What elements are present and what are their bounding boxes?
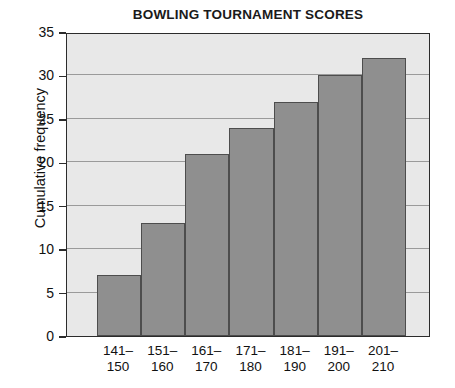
y-tick-mark [59,76,66,78]
y-tick-mark [59,336,66,338]
x-tick-label: 201–210 [353,343,413,375]
y-tick-label: 5 [8,285,54,301]
y-tick-label: 30 [8,67,54,83]
y-tick-label: 0 [8,328,54,344]
bar [97,275,141,336]
y-tick-mark [59,206,66,208]
y-tick-mark [59,293,66,295]
plot-area [66,33,430,337]
y-tick-mark [59,32,66,34]
y-tick-label: 10 [8,241,54,257]
chart-title: BOWLING TOURNAMENT SCORES [66,7,430,22]
bowling-tournament-scores-chart: BOWLING TOURNAMENT SCORES Cumulative fre… [0,0,455,388]
y-tick-mark [59,249,66,251]
y-tick-label: 35 [8,24,54,40]
bar-series [67,34,429,336]
bar [318,75,362,336]
bar [141,223,185,336]
x-tick-label-line-1: 201– [353,343,413,359]
y-tick-label: 15 [8,198,54,214]
y-tick-label: 20 [8,154,54,170]
bar [362,58,406,336]
bar [185,154,229,336]
x-tick-label-line-2: 210 [353,359,413,375]
y-tick-mark [59,119,66,121]
bar [274,102,318,337]
bar [229,128,273,336]
y-tick-mark [59,163,66,165]
y-tick-label: 25 [8,111,54,127]
